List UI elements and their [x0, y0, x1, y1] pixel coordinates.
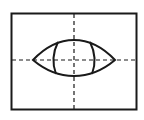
eye-diagram	[0, 0, 144, 120]
